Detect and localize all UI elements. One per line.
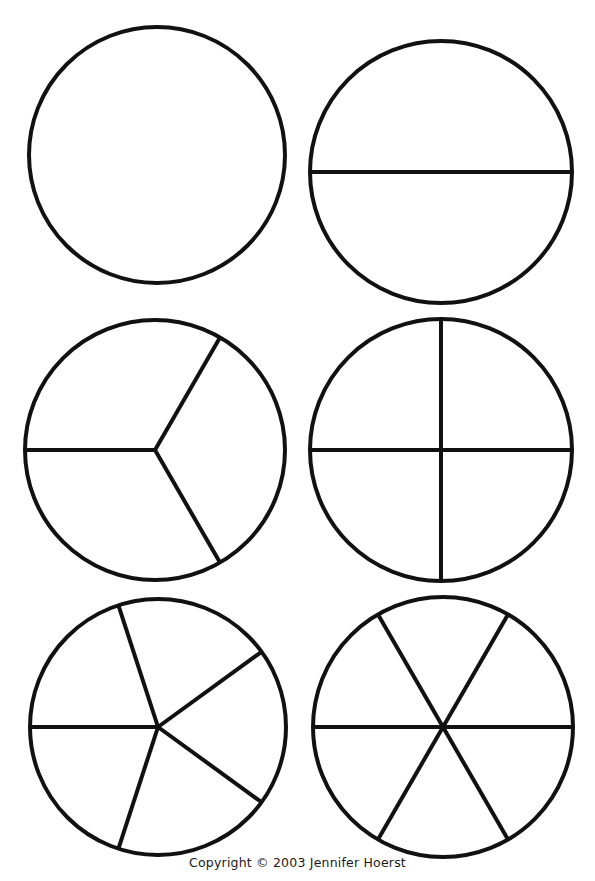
fraction-circles-worksheet: Copyright © 2003 Jennifer Hoerst xyxy=(0,0,595,881)
fraction-circle-sixths xyxy=(313,597,573,857)
circle-outline-whole xyxy=(29,27,285,283)
copyright-notice: Copyright © 2003 Jennifer Hoerst xyxy=(0,855,595,870)
fraction-circles-figure xyxy=(0,0,595,881)
fraction-circle-fifths xyxy=(30,599,286,855)
fraction-circle-fourths xyxy=(310,319,572,581)
fraction-circle-thirds xyxy=(25,320,285,580)
fraction-circle-halves xyxy=(310,41,572,303)
fraction-circle-whole xyxy=(29,27,285,283)
